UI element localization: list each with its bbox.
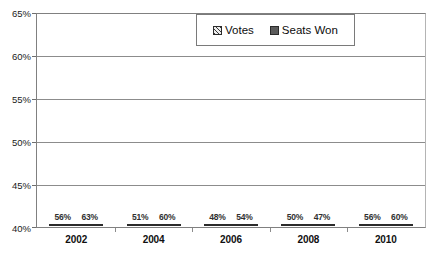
bar-wrap-seats-2006: 54% bbox=[231, 224, 258, 226]
bar-label-seats-2006: 54% bbox=[236, 212, 252, 222]
y-tick-label-55: 55% bbox=[0, 94, 31, 105]
bar-wrap-votes-2004: 51% bbox=[127, 224, 154, 226]
bar-seats-2002[interactable]: 63% bbox=[76, 224, 103, 226]
bar-votes-2006[interactable]: 48% bbox=[204, 224, 231, 226]
solid-swatch-icon bbox=[270, 26, 279, 35]
bar-seats-2004[interactable]: 60% bbox=[154, 224, 181, 226]
bar-seats-2008[interactable]: 47% bbox=[308, 224, 335, 226]
bar-votes-2004[interactable]: 51% bbox=[127, 224, 154, 226]
bar-label-votes-2002: 56% bbox=[54, 212, 70, 222]
bar-chart: 65% 60% 55% 50% 45% 40% 56% 63% bbox=[0, 0, 436, 261]
hatched-swatch-icon bbox=[213, 26, 222, 35]
y-tick-label-45: 45% bbox=[0, 180, 31, 191]
bar-label-votes-2006: 48% bbox=[209, 212, 225, 222]
bar-wrap-votes-2002: 56% bbox=[49, 224, 76, 226]
bar-votes-2010[interactable]: 56% bbox=[359, 224, 386, 226]
x-tick-label-2004: 2004 bbox=[115, 230, 192, 252]
bar-label-seats-2004: 60% bbox=[159, 212, 175, 222]
x-axis: 2002 2004 2006 2008 2010 bbox=[38, 230, 425, 252]
bar-seats-2010[interactable]: 60% bbox=[386, 224, 413, 226]
bar-wrap-votes-2008: 50% bbox=[281, 224, 308, 226]
y-axis: 65% 60% 55% 50% 45% 40% bbox=[0, 13, 36, 228]
bar-wrap-votes-2006: 48% bbox=[204, 224, 231, 226]
bar-label-seats-2010: 60% bbox=[391, 212, 407, 222]
bar-label-seats-2008: 47% bbox=[314, 212, 330, 222]
legend-label-votes: Votes bbox=[225, 24, 254, 36]
bar-votes-2002[interactable]: 56% bbox=[49, 224, 76, 226]
bar-label-votes-2008: 50% bbox=[287, 212, 303, 222]
y-tick-label-40: 40% bbox=[0, 223, 31, 234]
bar-group-2002: 56% 63% bbox=[38, 14, 115, 226]
legend-label-seats-won: Seats Won bbox=[282, 24, 338, 36]
x-tick-label-2006: 2006 bbox=[192, 230, 269, 252]
bar-wrap-votes-2010: 56% bbox=[359, 224, 386, 226]
bar-seats-2006[interactable]: 54% bbox=[231, 224, 258, 226]
bar-wrap-seats-2008: 47% bbox=[308, 224, 335, 226]
bar-wrap-seats-2004: 60% bbox=[154, 224, 181, 226]
chart-legend: Votes Seats Won bbox=[196, 14, 355, 46]
x-tick-label-2010: 2010 bbox=[347, 230, 424, 252]
x-tick-label-2002: 2002 bbox=[38, 230, 115, 252]
y-tick-label-50: 50% bbox=[0, 137, 31, 148]
legend-entry-seats-won[interactable]: Seats Won bbox=[270, 24, 338, 36]
x-tick-label-2008: 2008 bbox=[270, 230, 347, 252]
bar-label-votes-2010: 56% bbox=[364, 212, 380, 222]
bar-votes-2008[interactable]: 50% bbox=[281, 224, 308, 226]
bar-group-2004: 51% 60% bbox=[115, 14, 192, 226]
legend-entry-votes[interactable]: Votes bbox=[213, 24, 254, 36]
bar-wrap-seats-2002: 63% bbox=[76, 224, 103, 226]
bar-label-votes-2004: 51% bbox=[132, 212, 148, 222]
bar-group-2010: 56% 60% bbox=[347, 14, 424, 226]
bar-wrap-seats-2010: 60% bbox=[386, 224, 413, 226]
y-tick-label-60: 60% bbox=[0, 51, 31, 62]
bar-label-seats-2002: 63% bbox=[81, 212, 97, 222]
y-tick-label-65: 65% bbox=[0, 8, 31, 19]
